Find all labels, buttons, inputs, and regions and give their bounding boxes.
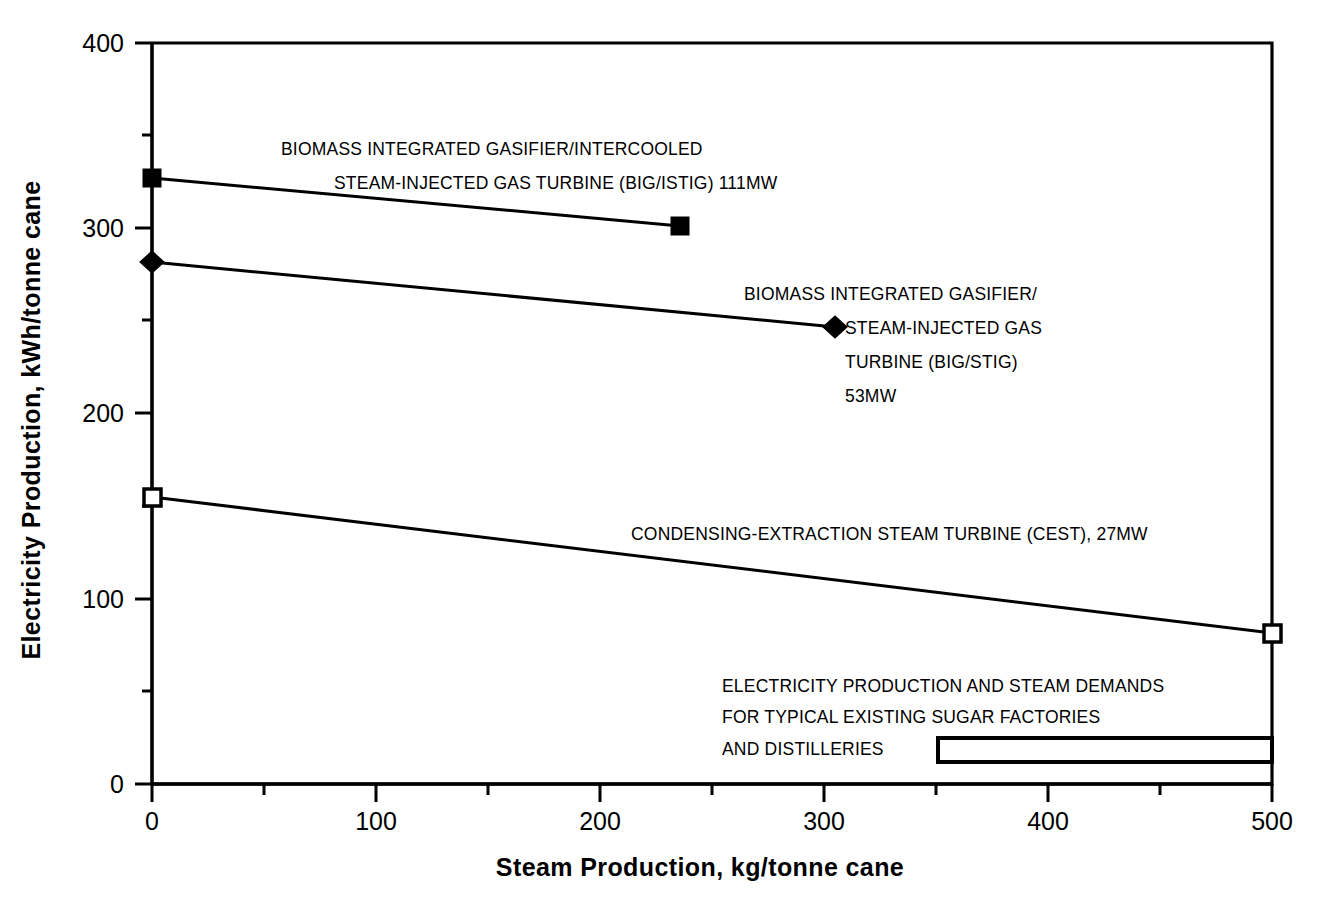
y-axis-title: Electricity Production, kWh/tonne cane	[17, 180, 45, 659]
annotation-cest-line-1: CONDENSING-EXTRACTION STEAM TURBINE (CES…	[631, 524, 1148, 544]
data-point-marker-filled-diamond	[141, 252, 163, 272]
x-tick-label-500: 500	[1251, 807, 1293, 835]
x-tick-label-300: 300	[803, 807, 845, 835]
data-point-marker-open-square	[1264, 625, 1281, 642]
x-tick-label-0: 0	[145, 807, 159, 835]
chart-canvas: 400 300 200 100 0 0 100 200 300 400 500 …	[0, 0, 1320, 904]
y-tick-label-200: 200	[82, 399, 124, 427]
annotation-big-istig-line-1: BIOMASS INTEGRATED GASIFIER/INTERCOOLED	[281, 139, 703, 159]
x-tick-labels: 0 100 200 300 400 500	[145, 807, 1293, 835]
chart-figure: 400 300 200 100 0 0 100 200 300 400 500 …	[0, 0, 1320, 904]
y-tick-label-300: 300	[82, 214, 124, 242]
annotation-big-stig-line-3: TURBINE (BIG/STIG)	[845, 352, 1018, 372]
annotation-typical-factories-line-3: AND DISTILLERIES	[722, 739, 884, 759]
annotation-big-stig-line-1: BIOMASS INTEGRATED GASIFIER/	[744, 284, 1037, 304]
annotation-big-stig: BIOMASS INTEGRATED GASIFIER/ STEAM-INJEC…	[744, 284, 1042, 406]
x-tick-label-200: 200	[579, 807, 621, 835]
x-tick-label-100: 100	[355, 807, 397, 835]
y-tick-label-100: 100	[82, 585, 124, 613]
x-tick-label-400: 400	[1027, 807, 1069, 835]
annotation-typical-factories-line-1: ELECTRICITY PRODUCTION AND STEAM DEMANDS	[722, 676, 1164, 696]
series-cest	[144, 489, 1281, 642]
series-big-stig	[141, 252, 846, 337]
annotation-big-stig-line-2: STEAM-INJECTED GAS	[845, 318, 1042, 338]
annotation-big-stig-line-4: 53MW	[845, 386, 897, 406]
x-axis-title: Steam Production, kg/tonne cane	[496, 853, 904, 881]
y-tick-label-0: 0	[110, 770, 124, 798]
annotation-typical-factories-line-2: FOR TYPICAL EXISTING SUGAR FACTORIES	[722, 707, 1100, 727]
data-point-marker-filled-square	[144, 170, 160, 186]
y-tick-labels: 400 300 200 100 0	[82, 29, 124, 798]
data-point-marker-filled-diamond	[824, 317, 846, 337]
y-axis-major-ticks	[135, 43, 152, 784]
annotation-cest: CONDENSING-EXTRACTION STEAM TURBINE (CES…	[631, 524, 1148, 544]
data-point-marker-open-square	[144, 489, 161, 506]
annotation-big-istig-line-2: STEAM-INJECTED GAS TURBINE (BIG/ISTIG) 1…	[334, 173, 778, 193]
data-point-marker-filled-square	[672, 218, 688, 234]
y-tick-label-400: 400	[82, 29, 124, 57]
existing-factories-range-box	[938, 738, 1272, 762]
annotation-big-istig: BIOMASS INTEGRATED GASIFIER/INTERCOOLED …	[281, 139, 778, 193]
